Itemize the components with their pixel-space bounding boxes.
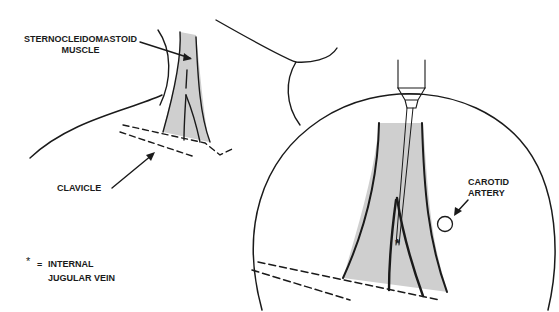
chin-line bbox=[216, 20, 337, 62]
shoulder-outline bbox=[30, 95, 162, 158]
legend-line2: JUGULAR VEIN bbox=[48, 273, 115, 284]
legend-equals: = bbox=[37, 260, 42, 271]
scm-label-line1: STERNOCLEIDOMASTOID bbox=[18, 34, 143, 45]
carotid-label-line2: ARTERY bbox=[468, 188, 509, 199]
clavicle-arrow-line bbox=[112, 155, 152, 188]
syringe-hub bbox=[398, 88, 425, 108]
legend-text: INTERNAL JUGULAR VEIN bbox=[48, 259, 115, 284]
scm-label: STERNOCLEIDOMASTOID MUSCLE bbox=[18, 34, 143, 56]
legend-symbol: * bbox=[26, 256, 30, 267]
carotid-label-line1: CAROTID bbox=[468, 177, 509, 188]
circle-clavicle-lower bbox=[252, 270, 350, 300]
syringe-barrel bbox=[398, 60, 425, 88]
clavicle-label: CLAVICLE bbox=[57, 183, 101, 194]
carotid-label: CAROTID ARTERY bbox=[468, 177, 509, 199]
carotid-artery bbox=[438, 217, 453, 232]
magnified-view bbox=[252, 60, 555, 310]
jaw-outline bbox=[158, 30, 169, 105]
legend-line1: INTERNAL bbox=[48, 259, 115, 270]
scm-label-line2: MUSCLE bbox=[18, 45, 143, 56]
neck-curve bbox=[288, 62, 300, 125]
vein-marker: * bbox=[395, 238, 400, 249]
